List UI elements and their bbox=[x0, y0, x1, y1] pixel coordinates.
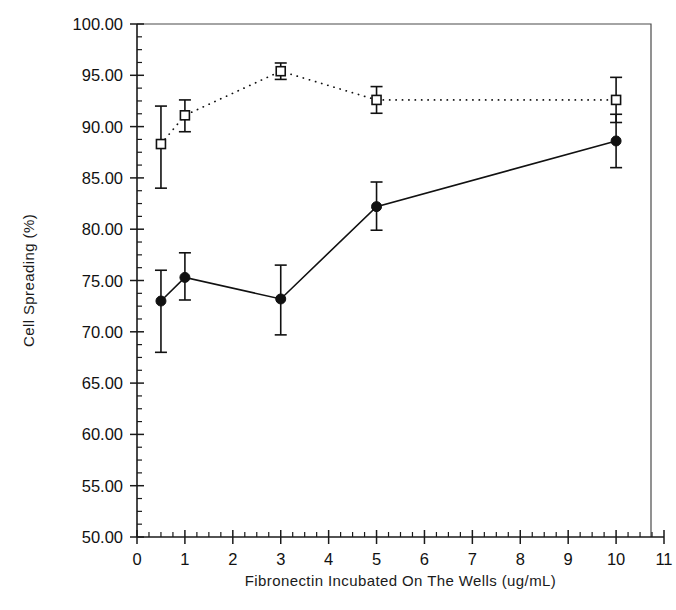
y-tick-label: 85.00 bbox=[82, 169, 123, 187]
y-tick-label: 95.00 bbox=[82, 66, 123, 84]
x-tick-label: 4 bbox=[324, 550, 333, 568]
y-tick-label: 100.00 bbox=[73, 15, 123, 33]
y-tick-label: 75.00 bbox=[82, 272, 123, 290]
y-tick-label: 80.00 bbox=[82, 220, 123, 238]
x-axis-title: Fibronectin Incubated On The Wells (ug/m… bbox=[245, 572, 556, 589]
series-line-open-square-dotted bbox=[161, 71, 616, 144]
x-tick-label: 5 bbox=[372, 550, 381, 568]
data-point-marker bbox=[180, 111, 189, 120]
x-tick-label: 8 bbox=[516, 550, 525, 568]
y-tick-label: 65.00 bbox=[82, 374, 123, 392]
plot-frame bbox=[137, 24, 651, 537]
chart-figure: 50.0055.0060.0065.0070.0075.0080.0085.00… bbox=[0, 0, 676, 610]
cell-spreading-line-chart: 50.0055.0060.0065.0070.0075.0080.0085.00… bbox=[0, 0, 676, 610]
data-point-marker bbox=[372, 95, 381, 104]
labels-layer: 50.0055.0060.0065.0070.0075.0080.0085.00… bbox=[20, 15, 673, 589]
x-tick-label: 6 bbox=[420, 550, 429, 568]
axes-layer bbox=[130, 24, 664, 544]
data-point-marker bbox=[612, 95, 621, 104]
y-tick-label: 70.00 bbox=[82, 323, 123, 341]
data-point-marker bbox=[276, 294, 286, 304]
y-tick-label: 90.00 bbox=[82, 118, 123, 136]
y-tick-label: 55.00 bbox=[82, 477, 123, 495]
y-axis-title: Cell Spreading (%) bbox=[20, 214, 37, 347]
y-tick-label: 50.00 bbox=[82, 528, 123, 546]
data-point-marker bbox=[156, 140, 165, 149]
x-tick-label: 1 bbox=[180, 550, 189, 568]
x-tick-label: 9 bbox=[564, 550, 573, 568]
x-tick-label: 3 bbox=[276, 550, 285, 568]
series-layer bbox=[155, 63, 622, 352]
data-point-marker bbox=[276, 67, 285, 76]
data-point-marker bbox=[156, 296, 166, 306]
x-tick-label: 11 bbox=[655, 550, 672, 568]
data-point-marker bbox=[611, 136, 621, 146]
data-point-marker bbox=[180, 272, 190, 282]
series-line-filled-circle-solid bbox=[161, 141, 616, 301]
y-tick-label: 60.00 bbox=[82, 425, 123, 443]
x-tick-label: 10 bbox=[607, 550, 625, 568]
data-point-marker bbox=[372, 202, 382, 212]
x-tick-label: 0 bbox=[132, 550, 141, 568]
error-bar bbox=[155, 270, 167, 352]
x-tick-label: 2 bbox=[228, 550, 237, 568]
x-tick-label: 7 bbox=[468, 550, 477, 568]
